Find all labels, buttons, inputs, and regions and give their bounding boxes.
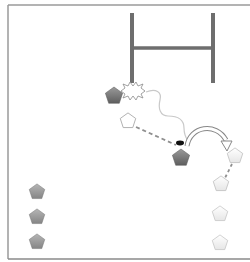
player-support-open	[120, 113, 135, 128]
curved-arrow-icon	[187, 129, 232, 151]
drill-diagram	[0, 0, 250, 262]
goal-posts-icon	[132, 13, 213, 83]
player-attacker-ball-carrier	[172, 149, 189, 165]
pass-line-1	[136, 127, 176, 145]
player-queue-left-1	[29, 184, 44, 199]
player-receiver-1	[227, 148, 242, 163]
ball-icon	[176, 141, 184, 146]
player-attacker-tackled	[105, 87, 122, 103]
player-queue-left-2	[29, 209, 44, 224]
pass-line-2	[224, 164, 232, 180]
player-receiver-2	[213, 176, 228, 191]
burst-contact-icon	[121, 82, 145, 100]
player-queue-right-2	[212, 235, 227, 250]
player-queue-left-3	[29, 234, 44, 249]
player-queue-right-1	[212, 206, 227, 221]
